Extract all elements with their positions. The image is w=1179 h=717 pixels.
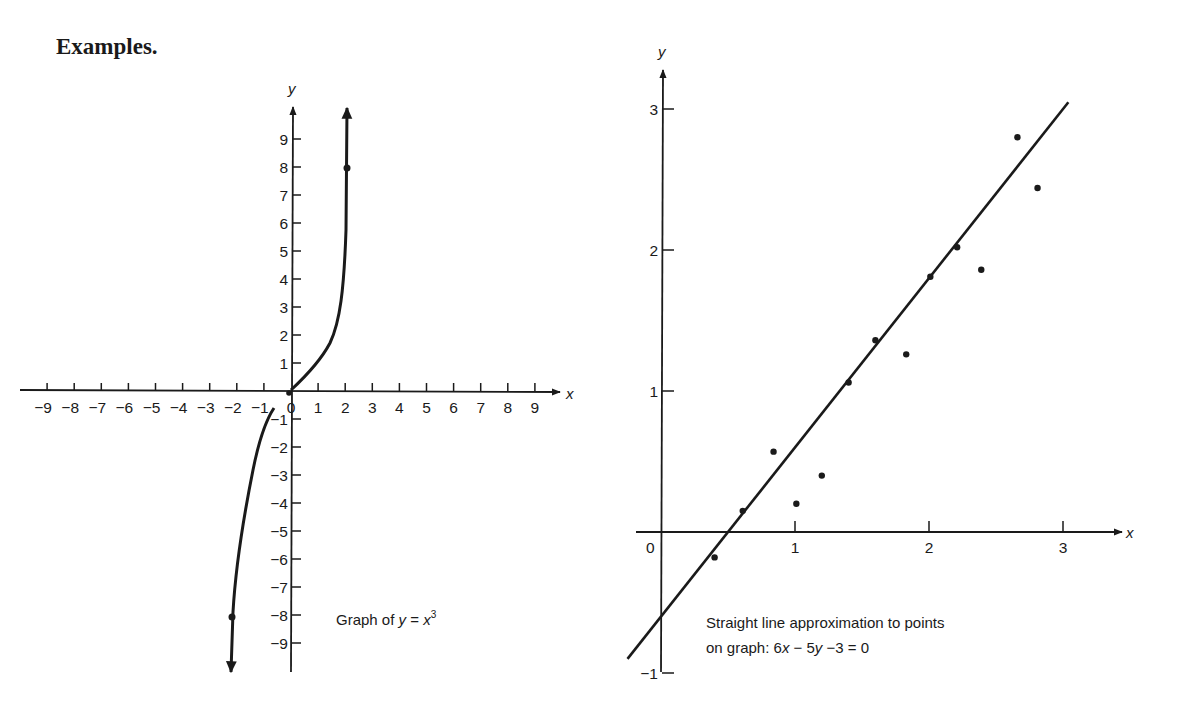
y-tick-label: −6 [270, 551, 288, 568]
x-tick-label: −9 [34, 399, 52, 416]
y-tick-label: −9 [270, 635, 288, 652]
x-tick-label: 8 [503, 399, 512, 416]
y-tick-label: −3 [270, 467, 288, 484]
data-point [740, 508, 746, 514]
cubic-caption: Graph of y = x3 [336, 609, 437, 628]
x-tick-label: 5 [422, 399, 431, 416]
y-tick-label: 2 [279, 327, 288, 344]
y-tick-label: 3 [279, 299, 288, 316]
y-tick-label: 7 [279, 187, 288, 204]
x-tick-label: 3 [1059, 539, 1068, 556]
curve-upper-branch [291, 108, 347, 390]
x-tick-label: −6 [116, 399, 134, 416]
x-tick-label: 9 [531, 399, 540, 416]
y-axis-ticks: 321−1 [640, 101, 674, 682]
fit-caption-line2: on graph: 6x − 5y −3 = 0 [706, 639, 869, 656]
y-axis-label: y [287, 80, 297, 97]
x-tick-label: −7 [88, 399, 106, 416]
x-tick-label: 4 [395, 399, 404, 416]
y-tick-label: −2 [270, 439, 288, 456]
y-tick-label: −1 [270, 411, 288, 428]
data-point [872, 337, 878, 343]
x-tick-label: 2 [925, 539, 934, 556]
y-tick-label: 3 [649, 101, 658, 118]
data-point [819, 472, 825, 478]
y-tick-label: 4 [279, 271, 288, 288]
y-tick-label: 9 [279, 131, 288, 148]
x-tick-label: −8 [61, 399, 79, 416]
y-tick-label: 1 [649, 383, 658, 400]
data-point [793, 501, 799, 507]
x-tick-label: 2 [341, 399, 350, 416]
y-tick-label: 2 [649, 242, 658, 259]
point-neg2-neg8 [229, 614, 236, 621]
y-tick-label: −1 [640, 665, 658, 682]
x-tick-label: −1 [251, 399, 269, 416]
data-point [1014, 134, 1020, 140]
data-point [770, 448, 776, 454]
x-tick-label: −5 [143, 399, 161, 416]
y-tick-label: −4 [270, 495, 288, 512]
data-point [954, 244, 960, 250]
cubic-function-chart: −9−8−7−6−5−4−3−2−10123456789 987654321−1… [20, 80, 574, 672]
x-axis-ticks: 123 [791, 521, 1068, 556]
page: Examples. −9−8−7−6−5−4−3−2−10123456789 9… [0, 0, 1179, 717]
x-axis-label: x [1125, 524, 1134, 541]
data-point [978, 267, 984, 273]
y-tick-label: 5 [279, 243, 288, 260]
y-tick-label: −7 [270, 579, 288, 596]
x-tick-label: 0 [287, 399, 296, 416]
x-tick-label: 7 [476, 399, 485, 416]
fit-caption-line1: Straight line approximation to points [706, 614, 944, 631]
data-point [927, 274, 933, 280]
x-axis-label: x [565, 385, 574, 402]
y-tick-label: −5 [270, 523, 288, 540]
x-tick-label: 1 [314, 399, 323, 416]
data-point [711, 554, 717, 560]
x-tick-label: 3 [368, 399, 377, 416]
x-tick-label: −3 [197, 399, 215, 416]
y-tick-label: 6 [279, 215, 288, 232]
x-tick-label: −2 [224, 399, 242, 416]
x-tick-label: 1 [791, 539, 800, 556]
data-point [845, 379, 851, 385]
y-tick-label: −8 [270, 607, 288, 624]
y-axis-label: y [657, 43, 667, 60]
point-2-8 [344, 165, 351, 172]
point-origin [286, 390, 292, 396]
x-tick-label: −4 [170, 399, 188, 416]
data-point [1034, 185, 1040, 191]
y-axis [661, 70, 663, 672]
y-tick-label: 8 [279, 159, 288, 176]
y-tick-label: 1 [279, 355, 288, 372]
x-tick-label: 6 [449, 399, 458, 416]
charts-canvas: −9−8−7−6−5−4−3−2−10123456789 987654321−1… [0, 0, 1179, 717]
data-point [903, 351, 909, 357]
curve-lower-branch [231, 408, 274, 672]
origin-label: 0 [646, 539, 655, 556]
line-fit-scatter-chart: 123 321−1 0 x y Straight line approximat… [628, 43, 1135, 682]
